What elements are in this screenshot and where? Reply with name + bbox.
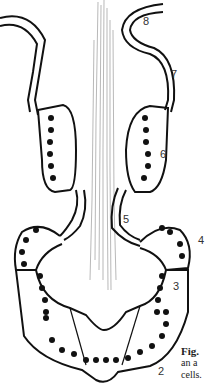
- caption-line-3: cells.: [181, 369, 202, 381]
- label-6: 6: [160, 149, 166, 160]
- label-4: 4: [198, 235, 204, 246]
- right-columnar-block: [112, 106, 168, 246]
- left-upper-epithelium: [0, 16, 45, 115]
- label-3: 3: [173, 281, 179, 292]
- label-8: 8: [143, 16, 149, 27]
- left-columnar-block: [38, 105, 85, 240]
- central-fibers: [90, 0, 116, 290]
- figure-caption: Fig. an a cells.: [181, 345, 202, 381]
- label-2: 2: [158, 366, 164, 377]
- label-5: 5: [123, 214, 129, 225]
- caption-line-1: Fig.: [181, 345, 202, 357]
- fan-segments: [15, 227, 190, 270]
- caption-line-2: an a: [181, 357, 202, 369]
- label-7: 7: [171, 69, 177, 80]
- epithelium-diagram: [0, 0, 206, 391]
